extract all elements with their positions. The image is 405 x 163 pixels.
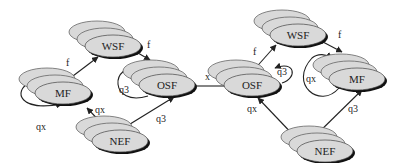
edge-label-wsf-mf: f	[338, 29, 342, 40]
node-label: OSF	[157, 79, 177, 91]
diagram-canvas: WSF MF OSF NEF f f q3 qx qx q3 x	[0, 0, 405, 163]
node-osf-left: OSF	[123, 60, 197, 98]
right-cluster: WSF OSF MF NEF f f q3 qx qx q3	[208, 10, 387, 163]
edge-label-nef-mf: qx	[95, 104, 105, 115]
edge-wsf-osf	[138, 53, 150, 60]
edge-label-nef-mf: q3	[348, 103, 358, 114]
edge-label-osf-wsf: f	[253, 46, 257, 57]
node-label: WSF	[102, 40, 125, 52]
edge-label-mf-loop: qx	[306, 73, 316, 84]
node-nef-right: NEF	[281, 126, 355, 163]
node-mf-right: MF	[313, 54, 387, 92]
node-mf-left: MF	[19, 68, 93, 106]
edge-label-mf-loop: qx	[36, 121, 46, 132]
node-wsf-left: WSF	[69, 21, 143, 59]
left-cluster: WSF MF OSF NEF f f q3 qx qx q3	[19, 21, 197, 154]
node-label: MF	[55, 87, 71, 99]
node-label: WSF	[287, 29, 310, 41]
node-label: OSF	[242, 79, 262, 91]
edge-label-nef-osf: qx	[247, 103, 257, 114]
edge-label-wsf-osf: f	[147, 39, 151, 50]
node-nef-left: NEF	[76, 116, 150, 154]
node-label: NEF	[110, 135, 131, 147]
node-label: MF	[349, 73, 365, 85]
edge-label-osf-loop: q3	[119, 84, 129, 95]
edge-label-mf-wsf: f	[66, 57, 70, 68]
node-wsf-right: WSF	[254, 10, 328, 48]
node-osf-right: OSF	[208, 60, 282, 98]
node-label: NEF	[315, 145, 336, 157]
edge-label-osf-loop: q3	[277, 66, 287, 77]
edge-wsf-mf	[323, 42, 342, 52]
edge-label-nef-osf: q3	[156, 113, 166, 124]
